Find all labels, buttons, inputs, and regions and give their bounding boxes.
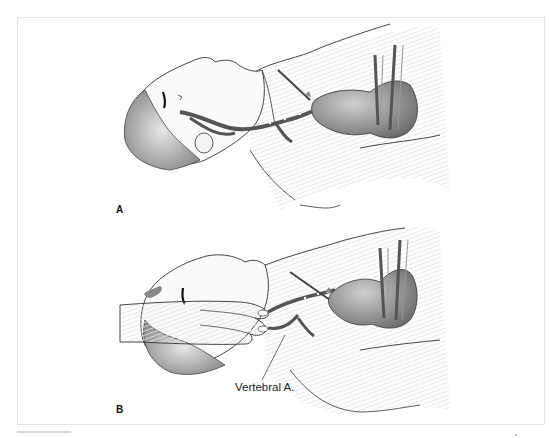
illustration-panel-a (0, 0, 560, 220)
footer-mark (515, 434, 517, 436)
panel-label-a: A (116, 204, 123, 215)
footer-divider (17, 431, 71, 433)
illustration-panel-b (0, 220, 560, 430)
callout-vertebral-artery: Vertebral A. (235, 381, 294, 393)
panel-label-b: B (116, 404, 123, 415)
panel-a: A (0, 0, 560, 220)
panel-b: B Vertebral A. (0, 220, 560, 430)
